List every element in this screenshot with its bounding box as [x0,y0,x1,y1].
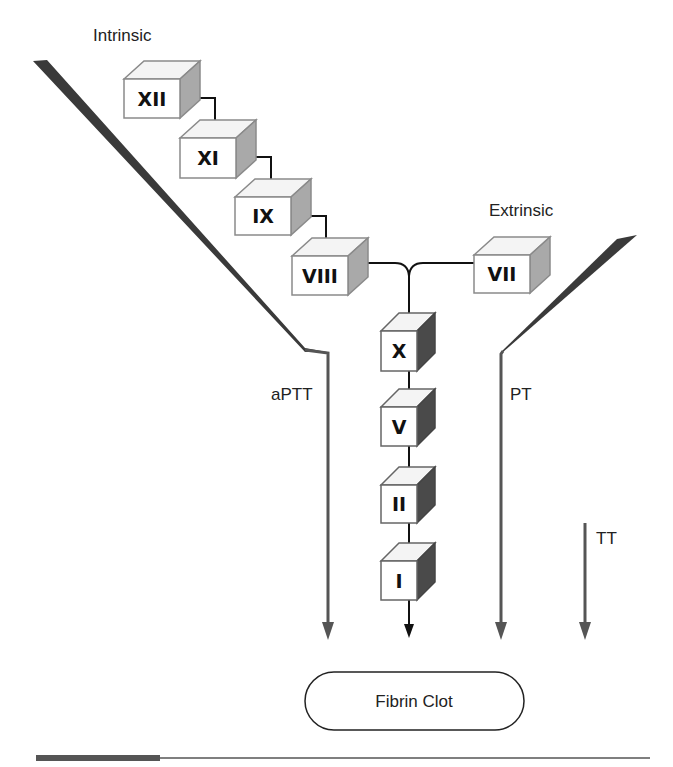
factor-label: VII [488,263,517,285]
factor-label: IX [252,205,274,227]
factor-label: XII [138,88,167,110]
fibrin-clot-label: Fibrin Clot [375,692,453,711]
tt-label: TT [596,529,617,548]
aptt-label: aPTT [271,385,313,404]
factor-label: XI [197,147,219,169]
factor-cube-i: I [381,543,435,600]
factor-cube-viii: VIII [292,238,368,295]
extrinsic-label: Extrinsic [489,201,554,220]
factor-cube-ii: II [381,467,435,523]
factor-cube-vii: VII [474,237,550,293]
fibrin-clot-node: Fibrin Clot [305,672,524,730]
common-arrowhead-icon [404,624,414,638]
factor-cube-xi: XI [180,120,256,178]
intrinsic-label: Intrinsic [93,26,152,45]
factor-label: VIII [302,265,338,287]
factor-cube-x: X [381,313,435,371]
factor-label: II [392,493,406,515]
pt-label: PT [510,385,532,404]
pt-arrowhead-icon [495,622,507,640]
tt-arrow [579,523,591,640]
factor-label: I [395,570,402,592]
tt-arrowhead-icon [579,622,591,640]
factor-cube-v: V [381,389,435,446]
factor-cube-ix: IX [235,179,311,235]
factor-label: X [392,340,407,362]
bottom-rule [36,755,650,761]
pt-funnel-line [495,235,637,640]
factor-cube-xii: XII [124,61,200,118]
aptt-arrowhead-icon [322,622,334,640]
factor-label: V [392,416,407,438]
coagulation-cascade-diagram: Intrinsic Extrinsic aPTT PT TT [0,0,673,767]
